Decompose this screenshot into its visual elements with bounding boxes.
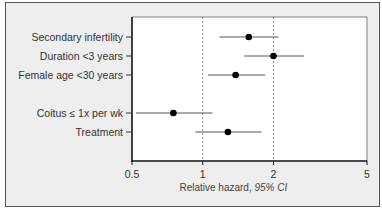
forest-plot: 0.5125Relative hazard, 95% CISecondary i…	[0, 0, 382, 211]
row-label: Female age <30 years	[18, 69, 123, 81]
x-tick-label: 2	[271, 168, 277, 180]
x-tick-label: 5	[364, 168, 370, 180]
point-estimate	[232, 72, 239, 79]
point-estimate	[245, 34, 252, 41]
row-label: Secondary infertility	[31, 31, 123, 43]
x-axis-label: Relative hazard, 95% CI	[179, 182, 287, 193]
x-tick-label: 1	[200, 168, 206, 180]
x-tick-label: 0.5	[125, 168, 140, 180]
point-estimate	[225, 129, 232, 136]
point-estimate	[270, 53, 277, 60]
row-label: Duration <3 years	[40, 50, 123, 62]
row-label: Coitus ≤ 1x per wk	[37, 107, 124, 119]
point-estimate	[170, 110, 177, 117]
row-label: Treatment	[76, 126, 124, 138]
